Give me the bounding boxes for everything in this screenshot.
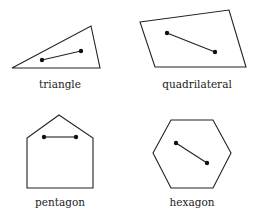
panel-pentagon: pentagon — [27, 115, 93, 208]
quadrilateral-shape — [140, 10, 246, 67]
hexagon-point-b — [205, 161, 209, 165]
quadrilateral-label: quadrilateral — [162, 78, 232, 90]
pentagon-point-a — [42, 135, 46, 139]
hexagon-label: hexagon — [170, 196, 215, 208]
panel-quadrilateral: quadrilateral — [140, 10, 246, 90]
hexagon-segment — [176, 143, 207, 163]
panel-triangle: triangle — [12, 26, 100, 90]
triangle-segment — [42, 51, 81, 60]
pentagon-label: pentagon — [35, 196, 85, 208]
quadrilateral-point-a — [165, 31, 169, 35]
hexagon-shape — [153, 120, 231, 188]
triangle-point-b — [79, 49, 83, 53]
quadrilateral-point-b — [213, 50, 217, 54]
pentagon-shape — [27, 115, 93, 188]
triangle-label: triangle — [39, 78, 81, 90]
panel-hexagon: hexagon — [153, 120, 231, 208]
pentagon-point-b — [74, 135, 78, 139]
triangle-shape — [12, 26, 100, 68]
convex-polygons-diagram: triangle quadrilateral pentagon hexagon — [0, 0, 256, 219]
hexagon-point-a — [174, 141, 178, 145]
triangle-point-a — [40, 58, 44, 62]
quadrilateral-segment — [167, 33, 215, 52]
